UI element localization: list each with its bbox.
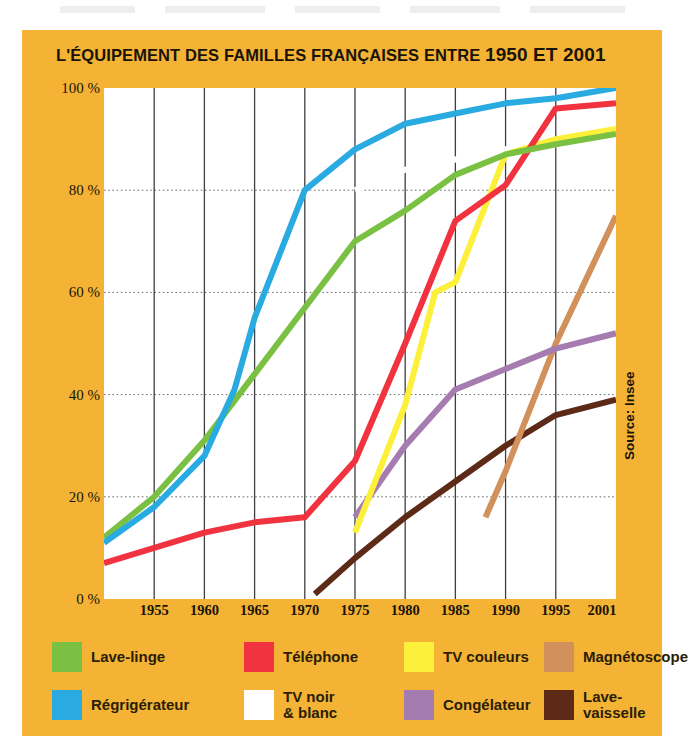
legend-item[interactable]: Téléphone: [244, 634, 358, 680]
legend-row-2: RégrigérateurTV noir & blancCongélateurL…: [52, 682, 678, 728]
legend-swatch-icon: [544, 690, 574, 720]
y-tick-label: 0 %: [76, 591, 100, 608]
x-tick-label: 1970: [290, 602, 319, 619]
legend-label: Lave-linge: [91, 649, 165, 665]
legend-label: Régrigérateur: [91, 697, 189, 713]
plot-canvas: [104, 88, 616, 599]
legend-item[interactable]: TV noir & blanc: [244, 682, 337, 728]
legend-label: Téléphone: [283, 649, 358, 665]
y-tick-label: 20 %: [69, 488, 100, 505]
legend-label: Lave-vaisselle: [583, 689, 678, 721]
chart-svg: [104, 88, 616, 599]
y-tick-label: 60 %: [69, 284, 100, 301]
gridlines-vertical: [154, 88, 556, 599]
legend-item[interactable]: Magnétoscope: [544, 634, 688, 680]
legend-item[interactable]: TV couleurs: [404, 634, 529, 680]
chart-legend: Lave-lingeTéléphoneTV couleursMagnétosco…: [52, 630, 678, 734]
legend-label: TV couleurs: [443, 649, 529, 665]
series-lines: [104, 88, 616, 594]
y-tick-label: 80 %: [69, 182, 100, 199]
x-tick-label: 1965: [240, 602, 269, 619]
y-axis-labels: 0 %20 %40 %60 %80 %100 %: [44, 88, 100, 599]
legend-swatch-icon: [52, 642, 82, 672]
source-note: Source: Insee: [622, 371, 637, 460]
x-tick-label: 1955: [140, 602, 169, 619]
x-tick-label: 1975: [340, 602, 369, 619]
legend-item[interactable]: Lave-vaisselle: [544, 682, 678, 728]
legend-swatch-icon: [404, 642, 434, 672]
legend-swatch-icon: [52, 690, 82, 720]
scan-artifact: [0, 0, 684, 26]
legend-label: TV noir & blanc: [283, 689, 337, 721]
legend-swatch-icon: [244, 642, 274, 672]
legend-swatch-icon: [404, 690, 434, 720]
chart-title: L'ÉQUIPEMENT DES FAMILLES FRANÇAISES ENT…: [56, 44, 650, 66]
series-line: [104, 103, 616, 563]
chart-panel: L'ÉQUIPEMENT DES FAMILLES FRANÇAISES ENT…: [22, 30, 662, 736]
legend-item[interactable]: Lave-linge: [52, 634, 165, 680]
legend-label: Magnétoscope: [583, 649, 688, 665]
series-line: [104, 88, 616, 543]
y-tick-label: 100 %: [61, 80, 100, 97]
chart-title-years: 1950 ET 2001: [485, 44, 606, 65]
x-axis-labels: 1955196019651970197519801985199019952001: [104, 602, 616, 628]
y-tick-label: 40 %: [69, 386, 100, 403]
chart-title-prefix: L'ÉQUIPEMENT DES FAMILLES FRANÇAISES ENT…: [56, 46, 485, 64]
x-tick-label: 1990: [491, 602, 520, 619]
x-tick-label: 1960: [190, 602, 219, 619]
legend-swatch-icon: [244, 690, 274, 720]
x-tick-label: 1980: [391, 602, 420, 619]
x-tick-label: 1995: [541, 602, 570, 619]
legend-row-1: Lave-lingeTéléphoneTV couleursMagnétosco…: [52, 634, 678, 680]
plot-area: [104, 88, 616, 599]
legend-swatch-icon: [544, 642, 574, 672]
legend-item[interactable]: Régrigérateur: [52, 682, 189, 728]
series-line: [355, 129, 616, 533]
x-tick-label: 2001: [588, 602, 617, 619]
legend-item[interactable]: Congélateur: [404, 682, 531, 728]
x-tick-label: 1985: [441, 602, 470, 619]
legend-label: Congélateur: [443, 697, 531, 713]
